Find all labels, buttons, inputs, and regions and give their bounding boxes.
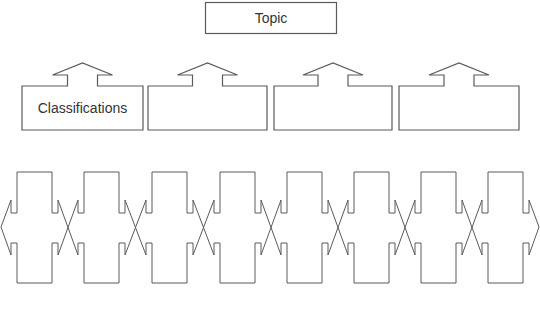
cross-shape <box>214 172 261 283</box>
classification-box[interactable] <box>148 63 267 130</box>
cross-shape <box>482 172 529 283</box>
up-arrow-box-shape <box>274 63 392 130</box>
up-arrow-box-shape <box>22 63 143 130</box>
detail-connector[interactable] <box>58 172 146 283</box>
topic-box[interactable]: Topic <box>206 3 337 34</box>
detail-connector[interactable] <box>1 172 78 283</box>
cross-shape <box>348 172 395 283</box>
classification-diagram: Topic Classifications <box>0 0 540 320</box>
detail-connector[interactable] <box>462 172 539 283</box>
detail-connector[interactable] <box>261 172 348 283</box>
cross-shape <box>78 172 125 283</box>
up-arrow-box-shape <box>399 63 519 130</box>
right-arrow-arm <box>529 200 539 255</box>
classification-box[interactable] <box>274 63 392 130</box>
cross-shape <box>415 172 462 283</box>
topic-label: Topic <box>255 10 288 26</box>
cross-shape <box>281 172 328 283</box>
detail-connector-row <box>1 172 539 283</box>
up-arrow-box-shape <box>148 63 267 130</box>
detail-connector[interactable] <box>395 172 482 283</box>
cross-shape <box>146 172 193 283</box>
detail-connector[interactable] <box>193 172 281 283</box>
cross-shape <box>11 172 58 283</box>
detail-connector[interactable] <box>125 172 214 283</box>
detail-connector[interactable] <box>328 172 415 283</box>
classification-box[interactable]: Classifications <box>22 63 143 130</box>
classification-row: Classifications <box>22 63 519 130</box>
left-arrow-arm <box>1 200 11 255</box>
classification-label: Classifications <box>38 100 127 116</box>
classification-box[interactable] <box>399 63 519 130</box>
